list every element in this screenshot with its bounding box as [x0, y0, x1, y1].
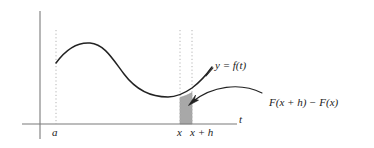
shaded-area-annotation-label: F(x + h) − F(x) — [269, 97, 338, 108]
tick-label-x-plus-h: x + h — [190, 127, 213, 138]
tick-label-x: x — [177, 127, 182, 138]
curve-equation-label: y = f(t) — [215, 60, 246, 71]
shaded-area-region — [180, 93, 192, 124]
tick-label-a: a — [52, 127, 58, 138]
area-callout-arrow-shaft — [192, 87, 262, 102]
function-curve — [56, 43, 212, 97]
figure-canvas: a x x + h t y = f(t) F(x + h) − F(x) — [0, 0, 374, 148]
t-axis-label: t — [239, 114, 242, 125]
